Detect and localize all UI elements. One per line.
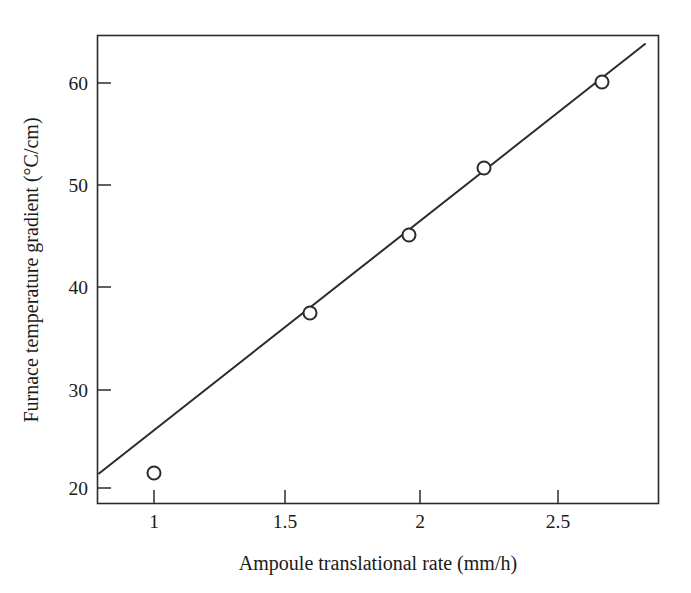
y-tick-label-20: 20: [69, 478, 89, 499]
x-tick-label-2p5: 2.5: [546, 511, 570, 532]
data-point-4: [478, 162, 491, 175]
x-tick-label-1p5: 1.5: [273, 511, 297, 532]
scatter-plot: 60 50 40 30 20 1 1.5 2 2.5: [0, 0, 691, 593]
x-tick-label-2: 2: [415, 511, 425, 532]
data-point-1: [148, 467, 161, 480]
y-tick-label-60: 60: [69, 73, 89, 94]
data-point-2: [304, 307, 317, 320]
x-axis-title: Ampoule translational rate (mm/h): [239, 552, 517, 575]
y-tick-label-50: 50: [69, 175, 89, 196]
data-point-3: [403, 229, 416, 242]
y-tick-label-40: 40: [69, 277, 89, 298]
x-tick-label-1: 1: [149, 511, 159, 532]
y-tick-label-30: 30: [69, 380, 89, 401]
data-point-5: [596, 76, 609, 89]
y-axis-title: Furnace temperature gradient (°C/cm): [20, 117, 43, 422]
figure-container: 60 50 40 30 20 1 1.5 2 2.5: [0, 0, 691, 593]
